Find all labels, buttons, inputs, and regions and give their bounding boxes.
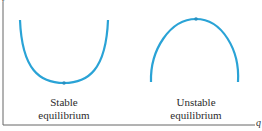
y-axis-label: V bbox=[1, 0, 5, 4]
stable-equilibrium-point bbox=[62, 81, 66, 85]
x-axis-label: q bbox=[256, 117, 261, 128]
stable-curve bbox=[20, 20, 108, 83]
unstable-equilibrium-point bbox=[194, 17, 198, 21]
unstable-curve bbox=[151, 19, 238, 82]
unstable-label-line2: equilibrium bbox=[156, 109, 236, 122]
stable-label-line1: Stable bbox=[24, 96, 104, 109]
stable-label-line2: equilibrium bbox=[24, 109, 104, 122]
stable-label: Stable equilibrium bbox=[24, 96, 104, 122]
unstable-label: Unstable equilibrium bbox=[156, 96, 236, 122]
unstable-label-line1: Unstable bbox=[156, 96, 236, 109]
